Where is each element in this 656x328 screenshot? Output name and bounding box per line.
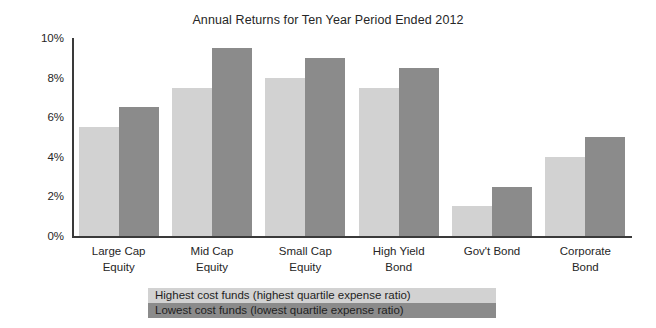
bar <box>79 127 119 236</box>
bar <box>119 107 159 236</box>
y-axis-tick-label: 6% <box>20 111 64 123</box>
bar <box>545 157 585 236</box>
bar <box>452 206 492 236</box>
bar-group <box>539 38 632 236</box>
legend-item[interactable]: Lowest cost funds (lowest quartile expen… <box>148 303 496 318</box>
bar-group <box>72 38 165 236</box>
chart-legend: Highest cost funds (highest quartile exp… <box>148 288 496 318</box>
bar <box>172 88 212 237</box>
bar <box>585 137 625 236</box>
bar <box>399 68 439 236</box>
y-axis-tick-label: 10% <box>20 32 64 44</box>
bar <box>305 58 345 236</box>
legend-item[interactable]: Highest cost funds (highest quartile exp… <box>148 288 496 303</box>
x-axis-category-label: Mid Cap Equity <box>165 243 258 275</box>
legend-label: Highest cost funds (highest quartile exp… <box>148 288 411 303</box>
bar <box>212 48 252 236</box>
plot-area <box>72 38 632 236</box>
x-axis-category-label: Corporate Bond <box>539 243 632 275</box>
y-axis-tick-label: 4% <box>20 151 64 163</box>
x-axis-category-label: Small Cap Equity <box>259 243 352 275</box>
bar-group <box>352 38 445 236</box>
bar-chart: Annual Returns for Ten Year Period Ended… <box>0 0 656 328</box>
x-axis-category-label: Large Cap Equity <box>72 243 165 275</box>
x-axis-line <box>72 236 632 238</box>
x-axis-category-label: High Yield Bond <box>352 243 445 275</box>
chart-title: Annual Returns for Ten Year Period Ended… <box>0 13 656 27</box>
bar <box>492 187 532 237</box>
bar-group <box>165 38 258 236</box>
legend-label: Lowest cost funds (lowest quartile expen… <box>148 303 404 318</box>
y-axis-tick-label: 0% <box>20 230 64 242</box>
y-axis-tick-label: 2% <box>20 190 64 202</box>
y-axis-tick-label: 8% <box>20 72 64 84</box>
x-axis-category-label: Gov't Bond <box>445 243 538 259</box>
bar <box>359 88 399 237</box>
bar-group <box>445 38 538 236</box>
bar-group <box>259 38 352 236</box>
bar <box>265 78 305 236</box>
